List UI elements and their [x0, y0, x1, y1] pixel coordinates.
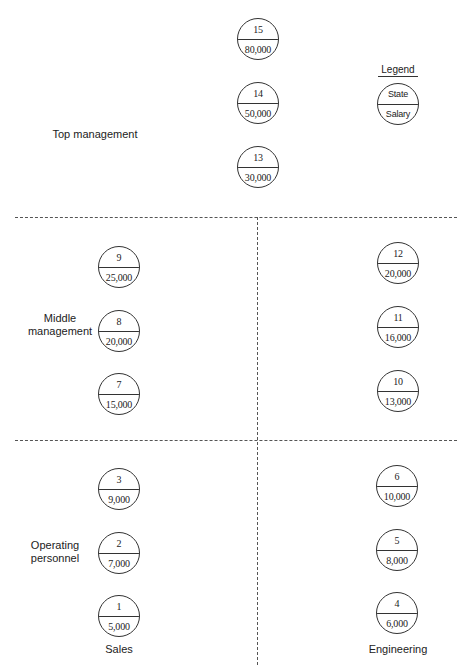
divider-sales-engineering	[257, 217, 258, 665]
state-node-4: 4 6,000	[376, 592, 418, 634]
state-number: 3	[99, 469, 139, 490]
state-node-1: 1 5,000	[98, 595, 140, 637]
state-number: 5	[377, 530, 417, 551]
salary-value: 6,000	[377, 613, 417, 633]
state-node-11: 11 16,000	[377, 306, 419, 348]
state-number: 10	[378, 371, 418, 392]
divider-middle-operating	[15, 440, 457, 441]
salary-value: 30,000	[238, 167, 278, 187]
legend-title: Legend	[378, 64, 418, 77]
salary-value: 13,000	[378, 391, 418, 411]
state-number: 11	[378, 307, 418, 328]
salary-value: 80,000	[238, 39, 278, 59]
salary-value: 20,000	[99, 331, 139, 351]
state-node-10: 10 13,000	[377, 370, 419, 412]
state-node-15: 15 80,000	[237, 18, 279, 60]
salary-value: 7,000	[99, 553, 139, 573]
level-label-text: Middle management	[28, 312, 92, 337]
state-node-9: 9 25,000	[98, 246, 140, 288]
state-number: 6	[377, 466, 417, 487]
state-number: 13	[238, 147, 278, 168]
legend-state-label: State	[378, 84, 418, 105]
level-label-text: Top management	[53, 128, 138, 140]
state-node-12: 12 20,000	[377, 242, 419, 284]
salary-value: 25,000	[99, 267, 139, 287]
state-node-3: 3 9,000	[98, 468, 140, 510]
state-node-13: 13 30,000	[237, 146, 279, 188]
state-number: 2	[99, 533, 139, 554]
state-number: 14	[238, 83, 278, 104]
level-label-text: Operating personnel	[31, 539, 79, 564]
state-node-14: 14 50,000	[237, 82, 279, 124]
state-node-8: 8 20,000	[98, 310, 140, 352]
level-label-middle-management: Middle management	[20, 312, 100, 338]
salary-value: 8,000	[377, 550, 417, 570]
salary-value: 16,000	[378, 327, 418, 347]
state-number: 7	[99, 374, 139, 395]
salary-value: 9,000	[99, 489, 139, 509]
level-label-top-management: Top management	[40, 128, 150, 141]
state-node-7: 7 15,000	[98, 373, 140, 415]
state-node-6: 6 10,000	[376, 465, 418, 507]
state-number: 8	[99, 311, 139, 332]
salary-value: 20,000	[378, 263, 418, 283]
salary-value: 5,000	[99, 616, 139, 636]
legend-node: State Salary	[377, 83, 419, 125]
level-label-operating-personnel: Operating personnel	[25, 539, 85, 565]
column-label-engineering: Engineering	[362, 643, 434, 656]
state-node-5: 5 8,000	[376, 529, 418, 571]
column-label-sales: Sales	[94, 643, 144, 656]
salary-value: 10,000	[377, 486, 417, 506]
state-number: 12	[378, 243, 418, 264]
salary-value: 15,000	[99, 394, 139, 414]
divider-top-middle	[15, 217, 457, 218]
salary-value: 50,000	[238, 103, 278, 123]
state-number: 15	[238, 19, 278, 40]
state-number: 9	[99, 247, 139, 268]
state-node-2: 2 7,000	[98, 532, 140, 574]
legend-salary-label: Salary	[378, 104, 418, 124]
state-number: 1	[99, 596, 139, 617]
state-number: 4	[377, 593, 417, 614]
